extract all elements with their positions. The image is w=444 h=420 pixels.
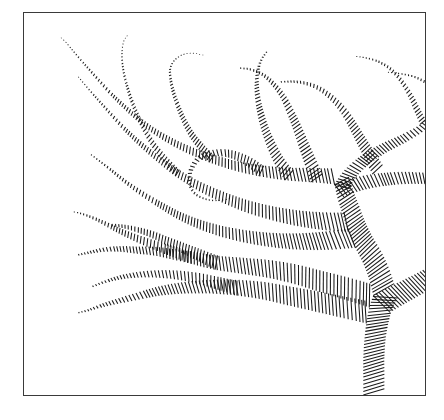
figure-root (0, 0, 444, 420)
plot-frame (23, 12, 426, 396)
glyph-streamline-canvas (24, 13, 425, 395)
